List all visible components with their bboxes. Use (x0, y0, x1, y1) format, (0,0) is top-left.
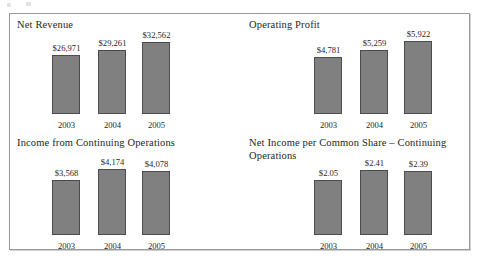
bar-value-label: $2.39 (395, 159, 442, 169)
bar-category-label: 2005 (395, 241, 442, 251)
bar-category-label: 2005 (133, 241, 180, 251)
bar-value-label: $5,259 (351, 38, 398, 48)
bar-group: $26,971 2003 (43, 32, 90, 114)
bar (404, 41, 432, 114)
bar-value-label: $2.05 (305, 168, 352, 178)
bar-value-label: $4,078 (133, 159, 180, 169)
bar (404, 171, 432, 235)
bar (52, 55, 80, 114)
chart-panel-operating-profit: Operating Profit $4,781 2003 $5,259 2004… (242, 14, 471, 132)
bar-group: $5,922 2005 (395, 32, 442, 114)
bar-group: $2.05 2003 (305, 153, 352, 235)
bar (98, 50, 126, 114)
figure-frame: Net Revenue $26,971 2003 $29,261 2004 $3… (9, 13, 470, 250)
bar-group: $2.39 2005 (395, 153, 442, 235)
bar-category-label: 2004 (351, 120, 398, 130)
bar-value-label: $3,568 (43, 168, 90, 178)
bar (98, 169, 126, 235)
bar-value-label: $29,261 (89, 38, 136, 48)
bar-category-label: 2003 (43, 241, 90, 251)
plot-area-income-from-continuing-operations: $3,568 2003 $4,174 2004 $4,078 2005 (10, 133, 242, 251)
bar (52, 180, 80, 235)
bar-group: $5,259 2004 (351, 32, 398, 114)
bar-value-label: $2.41 (351, 158, 398, 168)
bar (142, 171, 170, 235)
plot-area-net-income-per-common-share: $2.05 2003 $2.41 2004 $2.39 2005 (242, 133, 471, 251)
chart-panel-net-revenue: Net Revenue $26,971 2003 $29,261 2004 $3… (10, 14, 242, 132)
bar (360, 50, 388, 114)
bar (314, 180, 342, 235)
bar (314, 57, 342, 114)
bar-category-label: 2005 (395, 120, 442, 130)
chart-panel-income-from-continuing-operations: Income from Continuing Operations $3,568… (10, 132, 242, 251)
plot-area-net-revenue: $26,971 2003 $29,261 2004 $32,562 2005 (10, 14, 242, 132)
bar-value-label: $4,174 (89, 157, 136, 167)
bar-category-label: 2004 (89, 241, 136, 251)
plot-area-operating-profit: $4,781 2003 $5,259 2004 $5,922 2005 (242, 14, 471, 132)
bar-group: $4,078 2005 (133, 153, 180, 235)
bar-value-label: $4,781 (305, 45, 352, 55)
scan-artifact-mark-left (7, 3, 11, 7)
bar-category-label: 2005 (133, 120, 180, 130)
bar-group: $32,562 2005 (133, 32, 180, 114)
bar-group: $4,781 2003 (305, 32, 352, 114)
bar (360, 170, 388, 235)
bar-group: $29,261 2004 (89, 32, 136, 114)
bar-value-label: $26,971 (43, 43, 90, 53)
chart-panel-net-income-per-common-share: Net Income per Common Share – Continuing… (242, 132, 471, 251)
bar-category-label: 2003 (43, 120, 90, 130)
bar-category-label: 2004 (89, 120, 136, 130)
bar-category-label: 2003 (305, 120, 352, 130)
bar-group: $4,174 2004 (89, 153, 136, 235)
bar-category-label: 2004 (351, 241, 398, 251)
bar-category-label: 2003 (305, 241, 352, 251)
bar-value-label: $32,562 (133, 30, 180, 40)
bar-value-label: $5,922 (395, 29, 442, 39)
bar (142, 42, 170, 114)
bar-group: $2.41 2004 (351, 153, 398, 235)
scan-artifact-mark-right (26, 2, 31, 6)
bar-group: $3,568 2003 (43, 153, 90, 235)
